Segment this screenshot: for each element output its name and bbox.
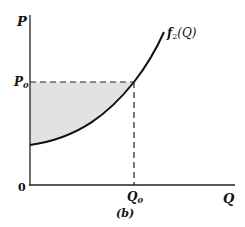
x-axis-label: Q (223, 191, 235, 206)
q0-label: Q0 (127, 190, 143, 205)
shaded-region (30, 82, 134, 145)
figure-caption: (b) (116, 207, 134, 220)
origin-label: 0 (18, 181, 26, 194)
p0-label: P0 (13, 75, 29, 90)
curve-label: f2(Q) (166, 26, 197, 41)
y-axis-label: P (16, 14, 28, 29)
chart: P Q 0 P0 Q0 f2(Q) (b) (0, 0, 245, 227)
